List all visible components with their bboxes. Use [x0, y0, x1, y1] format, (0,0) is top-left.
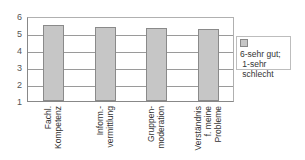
y-tick-label: 1	[12, 97, 22, 107]
bar-chart: 123456 Fachl. KompetenzInform.- vermittl…	[0, 0, 305, 160]
legend: 6-sehr gut; 1-sehr schlecht	[236, 36, 291, 70]
plot-area	[27, 17, 234, 102]
legend-swatch	[240, 39, 248, 47]
x-tick-label: Fachl. Kompetenz	[33, 106, 73, 158]
y-tick-label: 4	[12, 46, 22, 56]
bar	[43, 25, 64, 101]
y-tick-label: 3	[12, 63, 22, 73]
bar	[146, 28, 167, 101]
y-tick-label: 5	[12, 29, 22, 39]
legend-label: 6-sehr gut; 1-sehr schlecht	[240, 49, 281, 79]
x-tick-label: Gruppen- moderation	[136, 106, 176, 158]
y-tick-label: 2	[12, 80, 22, 90]
bar	[198, 29, 219, 101]
x-tick-label: Verständnis f. meine Probleme	[188, 106, 228, 158]
bar	[95, 27, 116, 101]
y-tick-label: 6	[12, 12, 22, 22]
x-tick-label: Inform.- vermittlung	[85, 106, 125, 158]
